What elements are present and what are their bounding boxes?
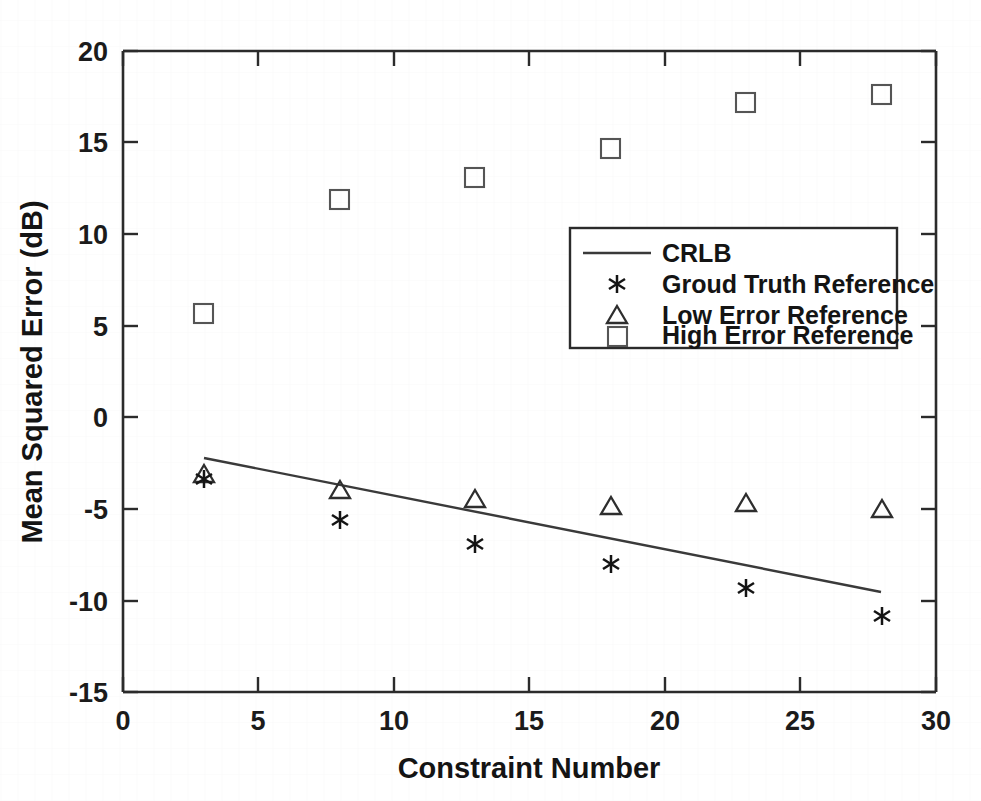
- chart-figure: 20 15 10 5 0 -5 -10 -15 0 5 10 15 20 25 …: [0, 0, 981, 801]
- data-point-triangle: [736, 494, 756, 511]
- y-axis-tick-labels: 20 15 10 5 0 -5 -10 -15: [69, 37, 108, 708]
- y-tick-label: -5: [84, 495, 108, 525]
- data-point-square: [872, 85, 891, 104]
- data-point-star: [603, 555, 619, 573]
- data-point-star: [738, 579, 754, 597]
- y-tick-label: -10: [69, 587, 108, 617]
- data-point-square: [194, 304, 213, 323]
- data-point-star: [874, 607, 890, 625]
- y-tick-label: 5: [93, 312, 108, 342]
- data-point-square: [465, 168, 484, 187]
- y-tick-label: 0: [93, 403, 108, 433]
- x-axis-tick-labels: 0 5 10 15 20 25 30: [115, 706, 951, 736]
- series-low-error-reference-markers: [194, 465, 892, 517]
- mse-vs-constraint-scatter-plot: 20 15 10 5 0 -5 -10 -15 0 5 10 15 20 25 …: [0, 0, 981, 801]
- data-point-square: [736, 93, 755, 112]
- y-tick-label: 10: [78, 220, 108, 250]
- y-axis-title: Mean Squared Error (dB): [16, 200, 48, 543]
- x-tick-label: 15: [514, 706, 544, 736]
- data-point-triangle: [601, 497, 621, 514]
- data-point-square: [330, 190, 349, 209]
- y-tick-label: 15: [78, 128, 108, 158]
- chart-legend[interactable]: CRLB Groud Truth Reference Low Error Ref…: [570, 228, 934, 349]
- data-point-star: [467, 535, 483, 553]
- series-groud-truth-reference-markers: [196, 470, 890, 625]
- x-axis-ticks: [123, 51, 936, 692]
- x-tick-label: 10: [379, 706, 409, 736]
- x-tick-label: 20: [650, 706, 680, 736]
- series-crlb-line: [204, 458, 881, 592]
- y-tick-label: -15: [69, 678, 108, 708]
- x-tick-label: 25: [785, 706, 815, 736]
- x-tick-label: 30: [921, 706, 951, 736]
- legend-label: Groud Truth Reference: [662, 270, 934, 298]
- y-axis-ticks: [123, 51, 936, 692]
- data-point-triangle: [465, 490, 485, 507]
- data-point-star: [332, 511, 348, 529]
- data-point-square: [601, 139, 620, 158]
- axes-frame: [123, 51, 936, 692]
- x-tick-label: 5: [250, 706, 265, 736]
- x-tick-label: 0: [115, 706, 130, 736]
- x-axis-title: Constraint Number: [398, 752, 661, 784]
- y-tick-label: 20: [78, 37, 108, 67]
- legend-label: High Error Reference: [662, 321, 914, 349]
- legend-label: CRLB: [662, 239, 731, 267]
- data-point-triangle: [872, 500, 892, 517]
